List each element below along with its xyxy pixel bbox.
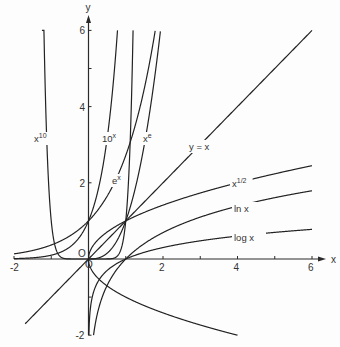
origin-label: O [78, 248, 86, 259]
y-tick-label: 6 [80, 25, 86, 36]
curve-label: log x [234, 232, 254, 243]
curve-label: ln x [234, 203, 249, 214]
x-axis-arrow-icon [318, 257, 326, 262]
curves [14, 30, 312, 335]
x-axis-label: x [331, 254, 336, 265]
function-plot: xy-2246-2246OO x1010xexxey = xx1/2ln xlo… [0, 0, 340, 347]
y-axis-label: y [86, 2, 91, 13]
curve-y-x [25, 30, 312, 323]
chart-figure: xy-2246-2246OO x1010xexxey = xx1/2ln xlo… [0, 0, 340, 347]
x-tick-label: -2 [10, 262, 19, 273]
y-axis-arrow-icon [86, 15, 91, 23]
curve-labels: x1010xexxey = xx1/2ln xlog x [32, 132, 266, 244]
curve-label: y = x [189, 141, 210, 152]
y-tick-label: 2 [80, 178, 86, 189]
y-tick-label: -2 [76, 330, 85, 341]
x-tick-label: 2 [159, 262, 165, 273]
x-tick-label: 4 [234, 262, 240, 273]
x-tick-label: 6 [308, 262, 314, 273]
y-tick-label: 4 [80, 102, 86, 113]
